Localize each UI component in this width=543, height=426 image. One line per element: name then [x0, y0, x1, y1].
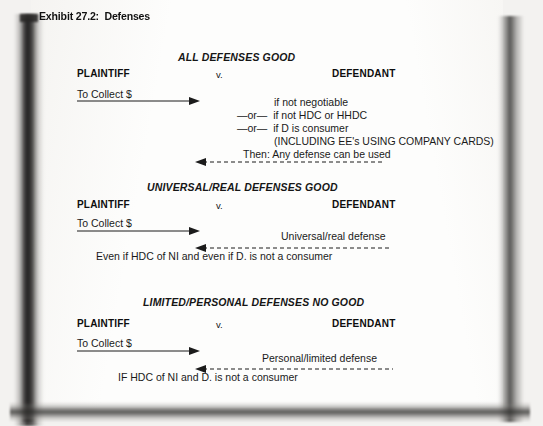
section-1-defendant-label: DEFENDANT [332, 68, 395, 80]
section-1-defense-line-1: if not negotiable [274, 96, 348, 108]
section-1-versus-label: v. [216, 69, 223, 81]
spine-top-nub-shadow [20, 14, 38, 22]
section-3-return-label: Personal/limited defense [262, 352, 377, 364]
section-2-versus-label: v. [216, 200, 223, 212]
page-right-edge-shadow [498, 16, 524, 422]
page-bottom-edge-shadow [10, 402, 530, 422]
section-1-return-arrow-icon [195, 157, 385, 167]
section-1-defense-line-2: —or— if not HDC or HHDC [237, 109, 367, 121]
section-3-versus-label: v. [216, 319, 223, 331]
section-2-heading: UNIVERSAL/REAL DEFENSES GOOD [147, 181, 338, 193]
section-3-defendant-label: DEFENDANT [332, 318, 395, 330]
section-2-plaintiff-label: PLAINTIFF [77, 199, 130, 211]
section-2-footnote: Even if HDC of NI and even if D. is not … [96, 250, 332, 262]
section-3-heading: LIMITED/PERSONAL DEFENSES NO GOOD [143, 296, 364, 308]
section-3-forward-arrow-icon [77, 346, 203, 356]
section-2-defendant-label: DEFENDANT [332, 199, 395, 211]
book-spine-core-shadow [22, 18, 34, 422]
section-3-plaintiff-label: PLAINTIFF [77, 318, 130, 330]
scanned-textbook-page-screenshot: Exhibit 27.2: Defenses ALL DEFENSES GOOD… [0, 0, 543, 426]
section-1-defense-line-4: (INCLUDING EE's USING COMPANY CARDS) [274, 135, 494, 147]
section-2-return-label: Universal/real defense [281, 230, 385, 242]
section-2-forward-arrow-icon [77, 226, 203, 236]
section-3-footnote: IF HDC of NI and D. is not a consumer [118, 371, 298, 383]
section-1-forward-arrow-icon [77, 96, 203, 106]
section-1-defense-line-3: —or— if D is consumer [237, 122, 348, 134]
section-1-heading: ALL DEFENSES GOOD [178, 51, 295, 63]
exhibit-title: Exhibit 27.2: Defenses [39, 10, 150, 22]
section-1-plaintiff-label: PLAINTIFF [77, 68, 130, 80]
